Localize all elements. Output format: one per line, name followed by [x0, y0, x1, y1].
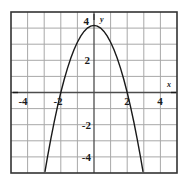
parabola-graph-figure: -4 -2 2 4 4 2 -2 -4 y x: [0, 0, 190, 185]
x-tick-label-neg4: -4: [18, 95, 28, 107]
x-tick-label-pos4: 4: [157, 95, 163, 107]
x-tick-label-pos2: 2: [124, 95, 130, 107]
x-axis-label: x: [166, 80, 171, 89]
y-axis-label: y: [99, 15, 104, 24]
y-tick-label-neg2: -2: [82, 119, 92, 131]
x-tick-label-neg2: -2: [53, 95, 63, 107]
y-tick-label-pos4: 4: [84, 15, 90, 27]
y-tick-label-neg4: -4: [82, 151, 92, 163]
y-tick-label-pos2: 2: [85, 54, 91, 66]
coordinate-plane-svg: -4 -2 2 4 4 2 -2 -4 y x: [0, 0, 190, 185]
